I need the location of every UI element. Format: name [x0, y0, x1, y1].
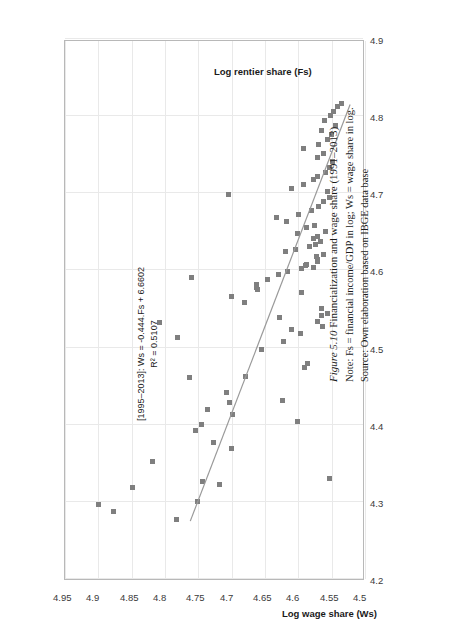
- caption-title: Figure 5.10 Financialization and wage sh…: [327, 124, 339, 382]
- figure-note: Note: Fs = financial income/GDP in log; …: [344, 124, 355, 382]
- y-tick-label: 4.95: [53, 592, 72, 603]
- y-tick-label: 4.6: [286, 592, 299, 603]
- x-tick-label: 4.6: [370, 266, 383, 277]
- y-axis-title: Log wage share (Ws): [282, 608, 377, 619]
- x-tick-label: 4.3: [370, 498, 383, 509]
- trendline: [65, 39, 365, 579]
- y-tick-label: 4.75: [186, 592, 205, 603]
- y-tick-label: 4.5: [353, 592, 366, 603]
- figure-source: Source: Own elaboration based on IBGE da…: [359, 124, 370, 382]
- y-tick-label: 4.65: [253, 592, 272, 603]
- y-tick-label: 4.8: [153, 592, 166, 603]
- y-tick-label: 4.9: [86, 592, 99, 603]
- x-tick-label: 4.2: [370, 575, 383, 586]
- figure-number: Figure 5.10: [327, 330, 339, 382]
- figure-title: Financialization and wage share (1991–20…: [327, 127, 339, 328]
- y-tick-label: 4.85: [120, 592, 139, 603]
- x-tick-label: 4.4: [370, 421, 383, 432]
- plot-area: [1995–2013]: Ws = -0.444.Fs + 6.6602 R² …: [64, 40, 364, 580]
- x-axis-title: Log rentier share (Fs): [214, 66, 312, 77]
- x-tick-label: 4.7: [370, 189, 383, 200]
- regression-annotation: [1995–2013]: Ws = -0.444.Fs + 6.6602 R² …: [135, 259, 161, 429]
- regression-equation: [1995–2013]: Ws = -0.444.Fs + 6.6602: [135, 259, 148, 429]
- x-tick-label: 4.5: [370, 344, 383, 355]
- x-tick-label: 4.8: [370, 112, 383, 123]
- figure-caption: Figure 5.10 Financialization and wage sh…: [327, 124, 370, 382]
- x-tick-label: 4.9: [370, 35, 383, 46]
- y-tick-label: 4.55: [320, 592, 339, 603]
- regression-r2: R² = 0.5107: [148, 259, 161, 429]
- y-tick-label: 4.7: [220, 592, 233, 603]
